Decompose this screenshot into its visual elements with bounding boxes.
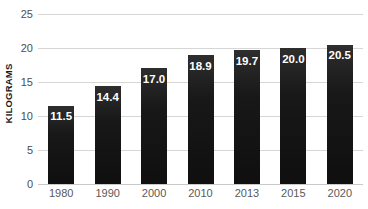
bar-value-label: 18.9 [188, 61, 214, 73]
bar-group[interactable]: 14.4 [95, 14, 121, 184]
bar[interactable] [188, 55, 214, 184]
bar-group[interactable]: 20.0 [280, 14, 306, 184]
bar-value-label: 20.5 [327, 50, 353, 62]
bars-layer: 11.514.417.018.919.720.020.5 [38, 14, 363, 184]
x-tick-label: 2010 [177, 188, 223, 199]
x-tick-label: 2000 [131, 188, 177, 199]
bar[interactable] [234, 50, 260, 184]
y-tick-label: 20 [5, 43, 33, 54]
bar-value-label: 19.7 [234, 56, 260, 68]
x-tick-label: 2013 [224, 188, 270, 199]
bar-value-label: 20.0 [280, 54, 306, 66]
x-axis-tick-labels: 1980199020002010201320152020 [38, 188, 363, 206]
y-tick-label: 25 [5, 9, 33, 20]
bar-group[interactable]: 11.5 [48, 14, 74, 184]
bar[interactable] [280, 48, 306, 184]
bar[interactable] [327, 45, 353, 184]
x-tick-label: 1980 [38, 188, 84, 199]
y-tick-label: 5 [5, 145, 33, 156]
bar-group[interactable]: 19.7 [234, 14, 260, 184]
bar[interactable] [141, 68, 167, 184]
y-axis-tick-labels: 0510152025 [0, 14, 38, 184]
y-tick-label: 15 [5, 77, 33, 88]
x-tick-label: 2015 [270, 188, 316, 199]
bar-value-label: 17.0 [141, 74, 167, 86]
bar-value-label: 11.5 [48, 111, 74, 123]
bar-value-label: 14.4 [95, 92, 121, 104]
x-tick-label: 1990 [84, 188, 130, 199]
gridline [38, 184, 363, 185]
bar-group[interactable]: 18.9 [188, 14, 214, 184]
bar-group[interactable]: 17.0 [141, 14, 167, 184]
bar-chart: KILOGRAMS 0510152025 11.514.417.018.919.… [0, 0, 368, 209]
x-tick-label: 2020 [317, 188, 363, 199]
bar-group[interactable]: 20.5 [327, 14, 353, 184]
y-tick-label: 0 [5, 179, 33, 190]
y-tick-label: 10 [5, 111, 33, 122]
